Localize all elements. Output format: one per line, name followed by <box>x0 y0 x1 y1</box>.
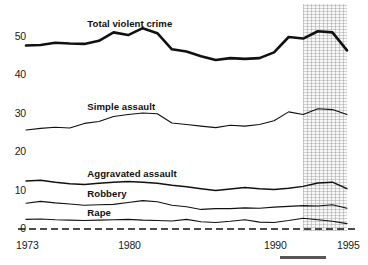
chart-plot-area <box>0 0 368 265</box>
series-line-total-violent-crime <box>26 28 347 60</box>
x-tick-label: 1980 <box>118 240 141 251</box>
series-label-rape: Rape <box>87 208 111 218</box>
series-label-robbery: Robbery <box>87 189 126 199</box>
series-line-simple-assault <box>26 109 347 130</box>
y-tick-label: 50 <box>0 31 26 42</box>
x-tick-label: 1973 <box>16 240 39 251</box>
y-tick-label: 10 <box>0 185 26 196</box>
series-label-aggravated-assault: Aggravated assault <box>87 169 176 179</box>
series-label-simple-assault: Simple assault <box>87 102 155 112</box>
y-tick-label: 20 <box>0 146 26 157</box>
violent-crime-line-chart: 01020304050 1973198019901995 Total viole… <box>0 0 368 265</box>
y-tick-label: 40 <box>0 69 26 80</box>
series-line-rape <box>26 218 347 223</box>
footer-rule-mark <box>280 256 326 259</box>
series-label-total-violent-crime: Total violent crime <box>87 19 172 29</box>
x-tick-label: 1990 <box>264 240 287 251</box>
x-tick-label: 1995 <box>337 240 360 251</box>
y-tick-label: 0 <box>0 223 26 234</box>
y-tick-label: 30 <box>0 108 26 119</box>
series-line-robbery <box>26 201 347 210</box>
series-line-aggravated-assault <box>26 180 347 190</box>
